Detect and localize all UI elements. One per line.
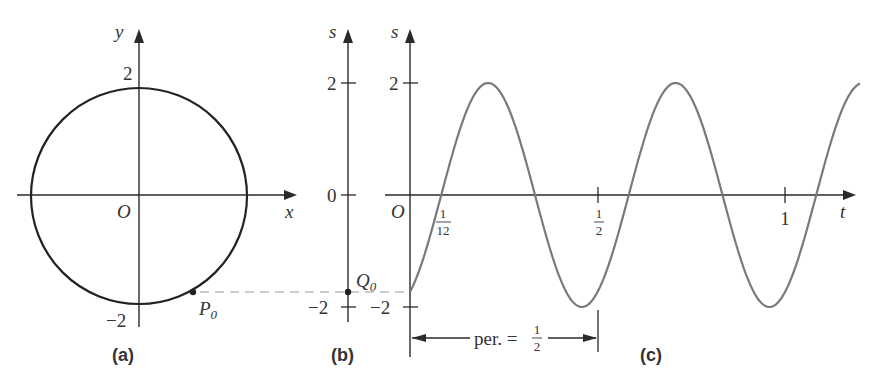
period-right-arrow-icon [583,334,597,342]
svg-text:1: 1 [440,206,447,221]
tick-label-2: 2 [123,63,133,84]
origin-label: O [117,201,131,222]
panel-c-sine-graph: s t O 2 −2 1 12 1 2 1 per. = 1 2 [370,21,860,365]
s-axis-b-label: s [329,21,336,42]
tick-c-2-label: 2 [389,73,399,94]
tick-b-2-label: 2 [327,73,337,94]
origin-c-label: O [391,201,405,222]
tick-label-one: 1 [780,208,790,229]
svg-text:1: 1 [596,206,603,221]
point-q0 [345,289,351,295]
y-axis-label: y [113,21,124,42]
x-axis-arrow-icon [284,190,297,200]
s-axis-c-arrow-icon [405,29,415,43]
panel-b-projection-axis: s 2 0 −2 Q0 (b) [308,21,377,365]
caption-c: (c) [640,345,662,365]
svg-text:1: 1 [534,322,541,337]
point-q0-label: Q0 [356,270,377,294]
y-axis-arrow-icon [134,29,144,43]
tick-label-one-twelfth: 1 12 [436,206,451,238]
sinusoid-figure: y x O 2 −2 P0 (a) s 2 0 −2 Q0 (b) s t [0,0,875,388]
svg-text:2: 2 [534,339,541,354]
svg-text:12: 12 [437,223,450,238]
period-left-arrow-icon [412,334,426,342]
point-p0 [190,289,196,295]
s-axis-c-label: s [391,21,398,42]
x-axis-label: x [284,201,294,222]
svg-text:2: 2 [596,223,603,238]
point-p0-label: P0 [198,298,218,322]
period-annotation: per. = 1 2 [412,310,598,354]
s-axis-b-arrow-icon [343,29,353,43]
period-label: per. = [474,328,517,349]
caption-a: (a) [112,345,134,365]
tick-label-one-half: 1 2 [594,206,604,238]
tick-c-neg2-label: −2 [370,297,390,318]
caption-b: (b) [331,345,354,365]
t-axis-label: t [840,201,846,222]
tick-b-neg2-label: −2 [308,297,328,318]
tick-label-neg2: −2 [106,310,126,331]
panel-a-unit-circle: y x O 2 −2 P0 (a) [17,21,297,365]
t-axis-arrow-icon [843,190,856,200]
tick-b-0-label: 0 [327,185,337,206]
